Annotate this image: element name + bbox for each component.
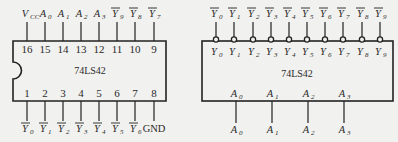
- signal-label: Y: [266, 46, 273, 57]
- signal-subscript: 2: [311, 93, 315, 101]
- external-label: A3: [338, 124, 351, 137]
- pin-7: 7Y6: [129, 87, 142, 136]
- internal-label: Y4: [284, 46, 296, 59]
- pin-signal: Y1: [39, 123, 52, 136]
- signal-subscript: 2: [84, 13, 88, 21]
- signal-label: Y: [375, 46, 382, 57]
- pin-number: 8: [151, 87, 157, 99]
- signal-label: Y: [338, 46, 345, 57]
- signal-subscript: 0: [239, 129, 243, 137]
- pin-number: 9: [151, 43, 157, 55]
- diagram-canvas: 74LS42 16VCC15A014A113A212A311Y910Y89Y7 …: [0, 0, 398, 142]
- signal-subscript: 2: [256, 51, 260, 59]
- signal-label: Y: [58, 123, 65, 134]
- pin-signal: A0: [39, 8, 52, 21]
- left-chip-name: 74LS42: [74, 65, 106, 76]
- pin-9: 9Y7: [148, 8, 161, 55]
- signal-subscript: 0: [219, 51, 223, 59]
- signal-label: Y: [284, 46, 291, 57]
- pin-number: 13: [76, 43, 88, 55]
- signal-label: A: [230, 88, 238, 99]
- signal-label: Y: [149, 8, 156, 19]
- output-y5: Y5Y5: [301, 8, 314, 59]
- pin-11: 11Y9: [111, 8, 124, 55]
- signal-label: Y: [302, 8, 309, 19]
- signal-subscript: 7: [346, 13, 350, 21]
- inversion-bubble-icon: [377, 37, 382, 42]
- external-label: A1: [266, 124, 279, 137]
- pin-signal: VCC: [22, 8, 40, 21]
- internal-label: A3: [338, 88, 351, 101]
- pin-number: 10: [130, 43, 142, 55]
- signal-label: Y: [357, 46, 364, 57]
- signal-label: Y: [40, 123, 47, 134]
- pin-signal: Y5: [111, 123, 124, 136]
- signal-subscript: 2: [256, 13, 260, 21]
- signal-label: A: [302, 88, 310, 99]
- inversion-bubble-icon: [268, 37, 273, 42]
- pin-16: 16VCC: [22, 8, 40, 55]
- signal-label: Y: [130, 123, 137, 134]
- internal-label: Y8: [357, 46, 369, 59]
- inversion-bubble-icon: [322, 37, 327, 42]
- signal-label: Y: [302, 46, 309, 57]
- signal-subscript: 1: [66, 13, 70, 21]
- output-y6: Y6Y6: [319, 8, 332, 59]
- signal-label: Y: [112, 8, 119, 19]
- pin-signal: Y9: [111, 8, 124, 21]
- pin-15: 15A0: [39, 8, 52, 55]
- pin-signal: Y3: [75, 123, 88, 136]
- signal-subscript: 9: [383, 13, 387, 21]
- internal-label: Y0: [211, 46, 223, 59]
- pin-10: 10Y8: [129, 8, 142, 55]
- signal-subscript: 0: [30, 128, 34, 136]
- signal-subscript: 1: [48, 128, 52, 136]
- output-y0: Y0Y0: [210, 8, 223, 59]
- output-y3: Y3Y3: [265, 8, 278, 59]
- pin-number: 11: [112, 43, 123, 55]
- signal-label: Y: [112, 123, 119, 134]
- external-label: Y9: [374, 8, 387, 21]
- pin-signal: Y2: [57, 123, 70, 136]
- signal-subscript: 7: [346, 51, 350, 59]
- external-label: Y1: [228, 8, 241, 21]
- pin-signal: Y0: [21, 123, 34, 136]
- signal-label: A: [93, 8, 101, 19]
- output-y4: Y4Y4: [283, 8, 296, 59]
- signal-label: Y: [229, 8, 236, 19]
- signal-subscript: 3: [101, 13, 106, 21]
- signal-subscript: 5: [310, 13, 314, 21]
- signal-subscript: 6: [328, 13, 332, 21]
- signal-subscript: 1: [237, 51, 241, 59]
- signal-label: A: [75, 8, 83, 19]
- signal-subscript: 4: [292, 13, 296, 21]
- signal-label: Y: [211, 8, 218, 19]
- signal-subscript: 5: [310, 51, 314, 59]
- pin-signal: Y7: [148, 8, 161, 21]
- internal-label: Y5: [302, 46, 314, 59]
- signal-subscript: 1: [275, 93, 279, 101]
- internal-label: Y9: [375, 46, 387, 59]
- inversion-bubble-icon: [286, 37, 291, 42]
- pin-signal: Y6: [129, 123, 142, 136]
- inversion-bubble-icon: [231, 37, 236, 42]
- signal-subscript: 3: [346, 129, 351, 137]
- signal-subscript: 8: [138, 13, 142, 21]
- signal-subscript: 3: [83, 128, 88, 136]
- pin-13: 13A2: [75, 8, 88, 55]
- pin-number: 6: [114, 87, 120, 99]
- internal-label: A2: [302, 88, 315, 101]
- pin-signal: A2: [75, 8, 88, 21]
- signal-subscript: 8: [365, 13, 369, 21]
- output-y2: Y2Y2: [247, 8, 260, 59]
- signal-subscript: 7: [157, 13, 161, 21]
- external-label: Y7: [337, 8, 350, 21]
- ic-pinout-diagram: 74LS42 16VCC15A014A113A212A311Y910Y89Y7 …: [0, 0, 398, 142]
- signal-label: GND: [143, 123, 166, 134]
- inversion-bubble-icon: [250, 37, 255, 42]
- pin-5: 5Y4: [93, 87, 106, 136]
- inversion-bubble-icon: [213, 37, 218, 42]
- right-output-pins: Y0Y0Y1Y1Y2Y2Y3Y3Y4Y4Y5Y5Y6Y6Y7Y7Y8Y8Y9Y9: [210, 8, 387, 59]
- external-label: Y3: [265, 8, 278, 21]
- pin-number: 12: [94, 43, 105, 55]
